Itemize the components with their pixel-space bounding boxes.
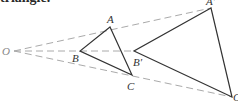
- label-a-prime: A′: [205, 0, 216, 7]
- label-o: O: [2, 45, 10, 57]
- label-c: C: [127, 80, 135, 92]
- label-a: A: [106, 13, 114, 25]
- label-c-prime: C′: [233, 91, 238, 102]
- dilation-rays: [14, 8, 232, 97]
- label-b-prime: B′: [133, 56, 143, 68]
- label-b: B: [72, 52, 79, 64]
- ray-oc: [14, 51, 232, 97]
- dilation-diagram: O A B C A′ B′ C′: [0, 0, 238, 102]
